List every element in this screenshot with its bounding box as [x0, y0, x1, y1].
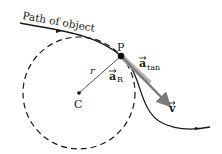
radius-label: r — [90, 65, 96, 76]
svg-text:tan: tan — [147, 63, 160, 72]
center-c-label: C — [74, 98, 82, 111]
path-direction-arrow-icon — [195, 127, 201, 130]
tangential-acceleration-label: a tan — [139, 57, 160, 73]
velocity-label: v — [168, 102, 176, 116]
circular-motion-diagram: Path of object P C r a R a tan v — [0, 0, 222, 154]
point-p-label: P — [117, 41, 125, 54]
center-c-dot — [77, 91, 81, 95]
svg-text:v: v — [168, 102, 176, 115]
radial-acceleration-label: a R — [109, 70, 124, 85]
svg-text:R: R — [117, 75, 124, 84]
